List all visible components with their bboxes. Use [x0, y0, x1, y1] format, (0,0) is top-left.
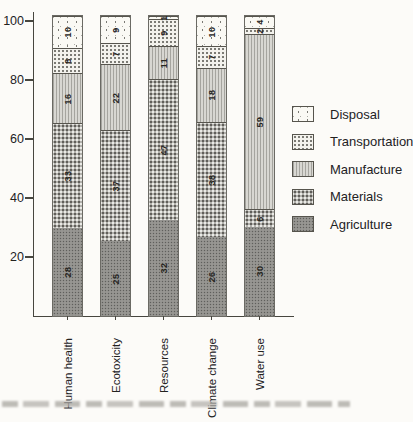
y-tick-label: 20 — [0, 250, 24, 264]
segment-agriculture: 26 — [197, 237, 226, 316]
segment-value-label: 7 — [111, 51, 121, 56]
legend-swatch-transportation-icon — [292, 134, 314, 150]
segment-value-label: 25 — [111, 273, 121, 284]
segment-value-label: 22 — [111, 92, 121, 103]
y-tick-mark — [25, 138, 33, 140]
segment-value-label: 26 — [207, 271, 217, 282]
segment-materials: 33 — [53, 123, 82, 227]
legend-label: Manufacture — [330, 162, 402, 177]
category-label-resources: Resources — [157, 338, 171, 422]
y-tick-label: 40 — [0, 191, 24, 205]
segment-disposal: 1 — [149, 16, 178, 19]
legend: DisposalTransportationManufactureMateria… — [292, 106, 413, 244]
segment-value-label: 59 — [255, 117, 265, 128]
legend-label: Materials — [330, 189, 383, 204]
segment-transportation: 7 — [101, 43, 130, 64]
segment-value-label: 16 — [63, 93, 73, 104]
segment-value-label: 1 — [159, 15, 169, 20]
legend-entry-disposal: Disposal — [292, 106, 413, 122]
segment-disposal: 10 — [53, 16, 82, 48]
legend-entry-materials: Materials — [292, 189, 413, 205]
segment-value-label: 9 — [159, 30, 169, 35]
x-tick-mark — [163, 316, 164, 320]
segment-transportation: 8 — [53, 48, 82, 73]
y-tick-label: 80 — [0, 73, 24, 87]
bar-human-health: 283316810 — [53, 16, 82, 316]
segment-materials: 37 — [101, 130, 130, 241]
segment-materials: 38 — [197, 122, 226, 237]
segment-materials: 6 — [245, 209, 274, 227]
x-tick-mark — [115, 316, 116, 320]
legend-entry-agriculture: Agriculture — [292, 216, 413, 232]
segment-manufacture: 18 — [197, 68, 226, 123]
segment-value-label: 30 — [255, 266, 265, 277]
segment-value-label: 10 — [63, 27, 73, 38]
segment-agriculture: 32 — [149, 220, 178, 316]
segment-disposal: 9 — [101, 16, 130, 43]
y-tick-mark — [25, 197, 33, 199]
legend-label: Transportation — [330, 134, 413, 149]
y-tick-mark — [25, 256, 33, 258]
segment-value-label: 10 — [207, 26, 217, 37]
bar-ecotoxicity: 25372279 — [101, 16, 130, 316]
y-tick-mark — [25, 79, 33, 81]
bar-water-use: 3065924 — [245, 16, 274, 316]
y-tick-label: 60 — [0, 132, 24, 146]
bar-resources: 32471191 — [149, 16, 178, 316]
segment-value-label: 9 — [111, 27, 121, 32]
segment-agriculture: 30 — [245, 227, 274, 316]
segment-value-label: 4 — [255, 20, 265, 25]
segment-disposal: 4 — [245, 16, 274, 28]
category-label-water-use: Water use — [253, 338, 267, 422]
segment-materials: 47 — [149, 79, 178, 220]
legend-swatch-agriculture-icon — [292, 216, 314, 232]
legend-swatch-manufacture-icon — [292, 161, 314, 177]
legend-entry-manufacture: Manufacture — [292, 161, 413, 177]
legend-label: Disposal — [330, 107, 380, 122]
segment-manufacture: 22 — [101, 64, 130, 130]
legend-entry-transportation: Transportation — [292, 134, 413, 150]
legend-label: Agriculture — [330, 217, 392, 232]
segment-value-label: 18 — [207, 90, 217, 101]
category-label-climate-change: Climate change — [205, 338, 219, 422]
y-tick-mark — [25, 20, 33, 22]
segment-value-label: 37 — [111, 181, 121, 192]
segment-transportation: 2 — [245, 28, 274, 34]
segment-disposal: 10 — [197, 16, 226, 46]
caption-cutoff — [2, 401, 350, 407]
bar-climate-change: 263818710 — [197, 16, 226, 316]
segment-agriculture: 25 — [101, 241, 130, 316]
x-tick-mark — [211, 316, 212, 320]
segment-value-label: 47 — [159, 145, 169, 156]
segment-value-label: 11 — [159, 58, 169, 68]
x-tick-mark — [259, 316, 260, 320]
segment-value-label: 38 — [207, 175, 217, 186]
segment-transportation: 7 — [197, 46, 226, 67]
y-tick-label: 100 — [0, 14, 24, 28]
segment-value-label: 8 — [63, 58, 73, 63]
segment-manufacture: 59 — [245, 34, 274, 209]
segment-manufacture: 16 — [53, 73, 82, 124]
segment-value-label: 7 — [207, 55, 217, 60]
category-label-ecotoxicity: Ecotoxicity — [109, 338, 123, 422]
segment-value-label: 2 — [255, 29, 265, 34]
plot-area: 10080604020283316810Human health25372279… — [33, 12, 294, 317]
segment-value-label: 28 — [63, 266, 73, 277]
legend-swatch-materials-icon — [292, 189, 314, 205]
segment-transportation: 9 — [149, 19, 178, 46]
segment-value-label: 33 — [63, 171, 73, 182]
segment-manufacture: 11 — [149, 46, 178, 79]
x-tick-mark — [67, 316, 68, 320]
segment-value-label: 32 — [159, 263, 169, 274]
legend-swatch-disposal-icon — [292, 106, 314, 122]
segment-agriculture: 28 — [53, 228, 82, 316]
category-label-human-health: Human health — [61, 338, 75, 422]
segment-value-label: 6 — [255, 216, 265, 221]
